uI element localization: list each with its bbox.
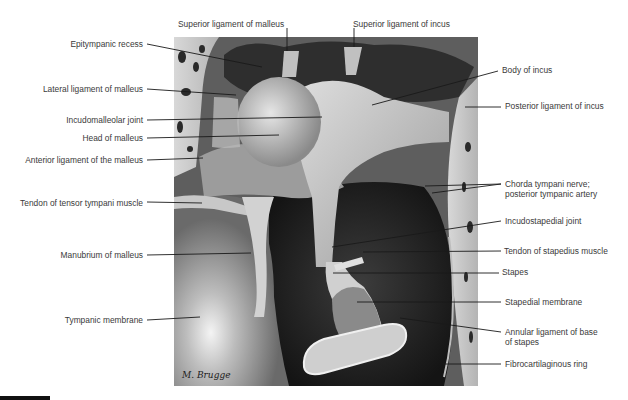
artist-signature: M. Brugge xyxy=(182,370,231,380)
label-posterior-tympanic-artery: posterior tympanic artery xyxy=(505,189,597,199)
label-incudomalleolar-joint: Incudomalleolar joint xyxy=(66,115,143,125)
label-stapes: Stapes xyxy=(502,267,528,277)
label-fibrocartilaginous-ring: Fibrocartilaginous ring xyxy=(505,359,587,369)
label-manubrium-of-malleus: Manubrium of malleus xyxy=(61,250,143,260)
label-of-stapes: of stapes xyxy=(505,337,539,347)
label-anterior-ligament-of-the-malleus: Anterior ligament of the malleus xyxy=(25,155,143,165)
label-tendon-of-stapedius-muscle: Tendon of stapedius muscle xyxy=(504,246,608,256)
label-superior-ligament-of-incus: Superior ligament of incus xyxy=(353,19,450,29)
middle-ear-illustration: M. Brugge xyxy=(174,37,478,386)
label-chorda-tympani-nerve: Chorda tympani nerve; xyxy=(505,179,590,189)
label-head-of-malleus: Head of malleus xyxy=(82,133,143,143)
ossicles-drawing xyxy=(174,37,478,386)
corner-bar xyxy=(0,396,50,400)
label-epitympanic-recess: Epitympanic recess xyxy=(70,39,143,49)
label-body-of-incus: Body of incus xyxy=(502,65,552,75)
label-tympanic-membrane: Tympanic membrane xyxy=(65,315,143,325)
label-superior-ligament-of-malleus: Superior ligament of malleus xyxy=(178,19,284,29)
label-tendon-of-tensor-tympani-muscle: Tendon of tensor tympani muscle xyxy=(20,198,143,208)
label-annular-ligament-of-base: Annular ligament of base xyxy=(505,327,598,337)
label-lateral-ligament-of-malleus: Lateral ligament of malleus xyxy=(43,84,143,94)
label-incudostapedial-joint: Incudostapedial joint xyxy=(505,216,581,226)
label-stapedial-membrane: Stapedial membrane xyxy=(505,297,582,307)
label-posterior-ligament-of-incus: Posterior ligament of incus xyxy=(505,101,604,111)
